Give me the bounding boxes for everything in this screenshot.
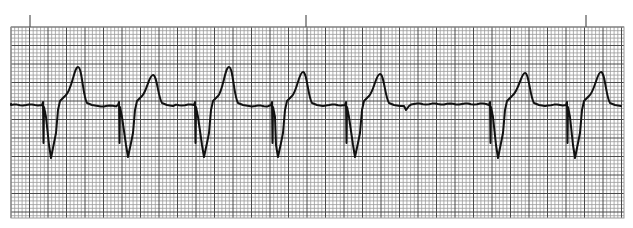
grid-border (11, 27, 624, 218)
ecg-strip (0, 0, 633, 228)
time-marker-ticks (30, 15, 586, 27)
grid-minor-lines (11, 27, 624, 218)
grid-major-lines (11, 27, 624, 218)
